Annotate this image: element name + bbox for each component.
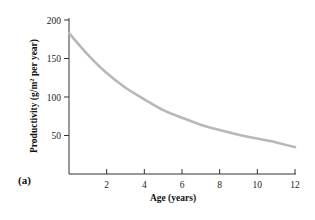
- y-axis-title: Productivity (g/m2 per year): [28, 39, 40, 153]
- productivity-curve: [69, 33, 295, 147]
- y-tick-label: 150: [47, 54, 62, 64]
- x-ticks: 24681012: [104, 169, 300, 190]
- x-tick-label: 6: [180, 180, 185, 190]
- axes: [69, 18, 296, 174]
- chart: 50100150200 24681012 Age (years) Product…: [0, 0, 315, 220]
- x-tick-label: 2: [104, 180, 109, 190]
- x-tick-label: 4: [142, 180, 147, 190]
- x-axis-title: Age (years): [150, 193, 196, 204]
- y-tick-label: 200: [47, 16, 62, 26]
- y-tick-label: 100: [47, 93, 62, 103]
- panel-label: (a): [18, 174, 31, 187]
- y-ticks: 50100150200: [47, 16, 69, 142]
- x-tick-label: 10: [253, 180, 263, 190]
- x-tick-label: 8: [217, 180, 222, 190]
- x-tick-label: 12: [290, 180, 300, 190]
- y-tick-label: 50: [52, 131, 62, 141]
